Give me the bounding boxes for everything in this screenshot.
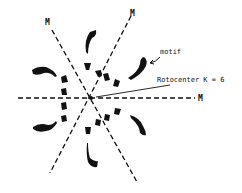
inner-motif [95, 119, 101, 126]
motif-label: motif [160, 49, 181, 56]
mirror-lines [18, 16, 195, 182]
mirror-label-top-left: M [45, 19, 50, 27]
inner-motif [84, 63, 91, 70]
outer-motif-left-lower [33, 121, 57, 132]
diagram-svg [0, 0, 242, 193]
outer-motif-bottom [87, 143, 98, 167]
inner-motif [104, 114, 110, 121]
rotocenter-point [89, 96, 93, 100]
rotocenter-label: Rotocenter K = 6 [157, 77, 224, 84]
mirror-label-right: M [198, 95, 203, 103]
outer-motif-left-upper [32, 67, 57, 77]
inner-motif [113, 79, 120, 87]
inner-motif [61, 88, 67, 95]
outer-motif-top [86, 30, 97, 54]
outer-motif-bottom-right [130, 115, 146, 135]
rotocenter-leader-line [96, 85, 170, 97]
outer-motif-top-right [128, 57, 147, 80]
inner-motif [61, 115, 67, 122]
symmetry-diagram: M M M motif Rotocenter K = 6 [0, 0, 242, 193]
inner-motif [85, 127, 91, 134]
mirror-label-top-right: M [130, 10, 135, 18]
inner-motif [114, 108, 121, 115]
inner-motif [61, 102, 67, 110]
inner-motif [61, 75, 68, 83]
inner-motif [95, 70, 102, 77]
inner-motif [103, 73, 110, 81]
